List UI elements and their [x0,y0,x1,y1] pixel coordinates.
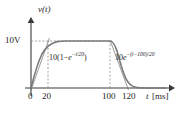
tangent-line-rise [31,38,50,90]
x-tick-0: 0 [28,92,33,101]
x-tick-20: 20 [42,92,51,101]
x-tick-100: 100 [102,92,116,101]
x-axis-label-unit: [ms] [152,92,169,101]
tangent-line-fall [110,40,129,90]
waveform-curve [31,41,166,88]
x-axis-arrowhead [169,85,175,92]
equation-fall-prefix: 10 [115,53,123,62]
y-axis-label-t: (t) [42,4,51,14]
equation-fall-exponent: −(t−100)/20 [127,51,155,57]
waveform-figure: v(t) 10V 0 20 100 120 t [ms] 10(1−e−t/20… [0,0,180,116]
equation-fall: 10e−(t−100)/20 [115,54,154,62]
equation-rise-suffix: ) [84,53,87,62]
x-tick-120: 120 [122,92,136,101]
level-label-10v: 10V [5,36,21,45]
equation-rise: 10(1−e−t/20) [49,54,87,62]
x-axis-label-t: t [146,92,149,101]
equation-rise-exponent: −t/20 [72,51,84,57]
equation-rise-prefix: 10(1− [49,53,68,62]
y-axis-arrowhead [28,17,35,23]
y-axis-label: v(t) [38,5,51,14]
